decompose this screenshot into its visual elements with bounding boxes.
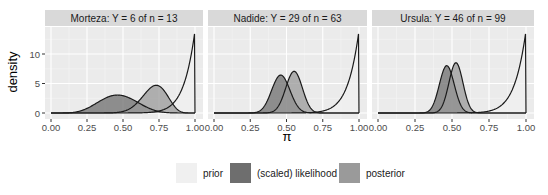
- x-tick-label: 0.00: [42, 122, 61, 133]
- facet-panels: Morteza: Y = 6 of n = 130.000.250.500.75…: [29, 10, 535, 133]
- facet-panel: Nadide: Y = 29 of n = 630.000.250.500.75…: [205, 10, 369, 133]
- legend-key: [176, 163, 197, 183]
- x-tick-label: 1.00: [517, 122, 536, 133]
- x-tick-label: 0.75: [150, 122, 169, 133]
- x-tick-label: 0.25: [241, 122, 260, 133]
- x-tick-label: 0.75: [314, 122, 333, 133]
- legend: prior(scaled) likelihoodposterior: [176, 163, 406, 183]
- x-tick-label: 0.75: [480, 122, 499, 133]
- x-tick-label: 0.25: [406, 122, 425, 133]
- x-tick-label: 1.00: [186, 122, 205, 133]
- facet-panel: Morteza: Y = 6 of n = 130.000.250.500.75…: [29, 10, 204, 133]
- legend-item: (scaled) likelihood: [230, 163, 337, 183]
- facet-title: Ursula: Y = 46 of n = 99: [400, 13, 506, 24]
- x-tick-label: 0.50: [114, 122, 133, 133]
- legend-label: prior: [203, 168, 224, 179]
- facet-title: Nadide: Y = 29 of n = 63: [233, 13, 341, 24]
- legend-label: posterior: [366, 168, 406, 179]
- chart-root: density π Morteza: Y = 6 of n = 130.000.…: [0, 0, 548, 195]
- legend-key: [230, 163, 251, 183]
- x-tick-label: 0.50: [277, 122, 296, 133]
- facet-panel: Ursula: Y = 46 of n = 990.000.250.500.75…: [369, 10, 536, 133]
- x-tick-label: 0.00: [205, 122, 224, 133]
- y-tick-label: 10: [29, 49, 40, 60]
- y-tick-label: 5: [35, 78, 40, 89]
- x-tick-label: 1.00: [350, 122, 369, 133]
- x-tick-label: 0.25: [78, 122, 97, 133]
- legend-label: (scaled) likelihood: [257, 168, 337, 179]
- x-tick-label: 0.50: [443, 122, 462, 133]
- y-axis-label: density: [5, 51, 20, 93]
- legend-key: [339, 163, 360, 183]
- legend-item: posterior: [339, 163, 406, 183]
- faceted-density-chart: density π Morteza: Y = 6 of n = 130.000.…: [0, 0, 548, 195]
- x-tick-label: 0.00: [369, 122, 388, 133]
- legend-item: prior: [176, 163, 224, 183]
- facet-title: Morteza: Y = 6 of n = 13: [71, 13, 178, 24]
- y-tick-label: 0: [35, 108, 40, 119]
